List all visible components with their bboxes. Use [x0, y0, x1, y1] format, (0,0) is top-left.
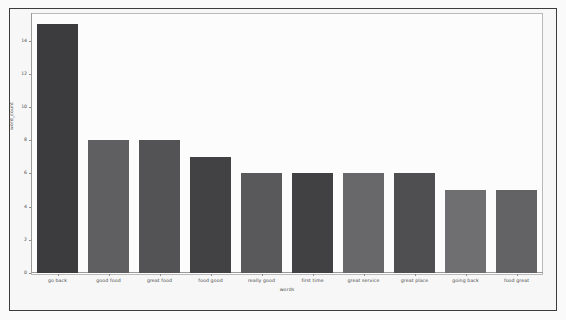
- x-tick-label: food great: [491, 277, 542, 285]
- x-tick: great service: [338, 274, 389, 284]
- y-tick-mark: [29, 173, 32, 174]
- x-tick: food good: [185, 274, 236, 284]
- y-tick-mark: [29, 140, 32, 141]
- y-tick-label: 10: [21, 103, 27, 111]
- bar[interactable]: [37, 24, 78, 273]
- bar[interactable]: [139, 140, 180, 273]
- y-tick-mark: [29, 74, 32, 75]
- x-tick-mark: [160, 274, 161, 276]
- x-tick-mark: [109, 274, 110, 276]
- y-tick-mark: [29, 107, 32, 108]
- bar[interactable]: [190, 157, 231, 273]
- y-tick: 14: [0, 41, 31, 42]
- y-tick-mark: [29, 41, 32, 42]
- x-tick: go back: [32, 274, 83, 284]
- x-tick: going back: [440, 274, 491, 284]
- x-tick: food great: [491, 274, 542, 284]
- plot-area: [32, 14, 542, 273]
- y-tick-label: 6: [24, 169, 27, 177]
- bar[interactable]: [292, 173, 333, 273]
- x-tick-label: great place: [389, 277, 440, 285]
- bar[interactable]: [241, 173, 282, 273]
- x-tick-mark: [211, 274, 212, 276]
- y-tick-label: 8: [24, 136, 27, 144]
- bar[interactable]: [445, 190, 486, 273]
- x-tick: good food: [83, 274, 134, 284]
- figure-root: 02468101214 word_count go backgood foodg…: [0, 0, 566, 320]
- y-tick: 2: [0, 240, 31, 241]
- y-tick-label: 0: [24, 269, 27, 277]
- x-tick-mark: [466, 274, 467, 276]
- y-tick-label: 4: [24, 203, 27, 211]
- y-tick: 6: [0, 173, 31, 174]
- x-tick-label: great food: [134, 277, 185, 285]
- y-tick-mark: [29, 240, 32, 241]
- x-tick: first time: [287, 274, 338, 284]
- x-tick-mark: [58, 274, 59, 276]
- y-tick: 0: [0, 273, 31, 274]
- bar[interactable]: [88, 140, 129, 273]
- x-tick-label: food good: [185, 277, 236, 285]
- x-tick: great place: [389, 274, 440, 284]
- y-tick: 4: [0, 207, 31, 208]
- x-tick-label: first time: [287, 277, 338, 285]
- y-tick-mark: [29, 273, 32, 274]
- x-tick-mark: [517, 274, 518, 276]
- y-tick-label: 2: [24, 236, 27, 244]
- y-tick-label: 12: [21, 70, 27, 78]
- x-tick-label: go back: [32, 277, 83, 285]
- y-tick-mark: [29, 207, 32, 208]
- x-tick: really good: [236, 274, 287, 284]
- x-tick-mark: [364, 274, 365, 276]
- y-axis-title: word_count: [9, 102, 14, 130]
- y-tick-label: 14: [21, 37, 27, 45]
- x-axis-title: words: [31, 286, 543, 294]
- x-tick-label: good food: [83, 277, 134, 285]
- x-tick-mark: [313, 274, 314, 276]
- figure-caption: [118, 0, 378, 7]
- bar[interactable]: [343, 173, 384, 273]
- x-tick: great food: [134, 274, 185, 284]
- x-tick-label: great service: [338, 277, 389, 285]
- bar[interactable]: [496, 190, 537, 273]
- x-tick-mark: [415, 274, 416, 276]
- y-tick: 12: [0, 74, 31, 75]
- x-tick-label: going back: [440, 277, 491, 285]
- bar[interactable]: [394, 173, 435, 273]
- y-tick: 8: [0, 140, 31, 141]
- y-tick: 10: [0, 107, 31, 108]
- x-tick-mark: [262, 274, 263, 276]
- x-tick-label: really good: [236, 277, 287, 285]
